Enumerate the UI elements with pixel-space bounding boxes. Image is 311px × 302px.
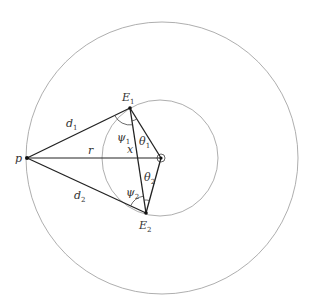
label-p: p (15, 152, 22, 165)
label-d1: d1 (66, 117, 78, 132)
label-r: r (88, 144, 94, 157)
label-psi2: ψ2 (126, 186, 139, 201)
point-center (159, 156, 162, 159)
point-p (25, 156, 29, 160)
point-e1 (128, 106, 132, 110)
angle-arc-theta2 (144, 200, 149, 201)
angle-arc-psi1 (115, 115, 133, 125)
geometry-diagram: p E1 E2 d1 d2 r x ψ1 θ1 ψ2 θ2 (0, 0, 311, 302)
point-e2 (144, 211, 148, 215)
label-theta2: θ2 (144, 171, 155, 186)
angle-arc-theta1 (132, 119, 137, 121)
label-e2: E2 (138, 219, 152, 234)
label-psi1: ψ1 (117, 131, 130, 146)
label-e1: E1 (121, 91, 135, 106)
segment-e1-center (130, 108, 161, 158)
label-d2: d2 (74, 189, 86, 204)
